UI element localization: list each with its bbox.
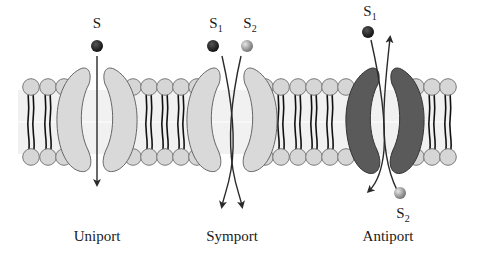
uniport-solute-label: S: [93, 15, 101, 32]
symport-label: Symport: [206, 228, 258, 245]
uniport-solute: [91, 40, 103, 52]
antiport-label: Antiport: [363, 228, 414, 245]
membrane-transport-diagram: [0, 0, 482, 254]
antiport-solute-2: [394, 187, 406, 199]
antiport-solute-2-label: S2: [396, 205, 409, 224]
solute-subscript: 1: [372, 11, 377, 22]
solute-symbol: S: [93, 15, 101, 31]
symport-solute-2: [241, 40, 253, 52]
symport-solute-1-label: S1: [209, 15, 222, 34]
antiport-solute-1-label: S1: [363, 3, 376, 22]
antiport-solute-1: [362, 26, 374, 38]
symport-solute-1: [207, 40, 219, 52]
solute-subscript: 2: [252, 23, 257, 34]
solute-subscript: 1: [218, 23, 223, 34]
solute-subscript: 2: [405, 213, 410, 224]
symport-solute-2-label: S2: [243, 15, 256, 34]
uniport-label: Uniport: [74, 228, 121, 245]
